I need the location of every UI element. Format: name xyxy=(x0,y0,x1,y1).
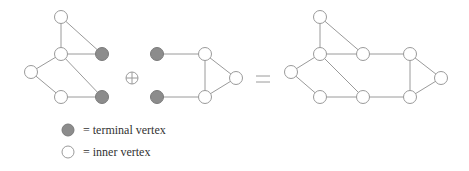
diagram-svg xyxy=(0,0,469,171)
inner-vertex xyxy=(25,66,38,79)
left-graph-edge xyxy=(61,17,102,54)
oplus-icon xyxy=(126,72,138,84)
inner-vertex xyxy=(314,11,327,24)
inner-vertex xyxy=(404,91,417,104)
inner-vertex xyxy=(404,48,417,61)
legend-terminal-vertex-icon xyxy=(62,124,74,136)
terminal-vertex xyxy=(96,48,109,61)
legend xyxy=(62,124,74,158)
inner-vertex xyxy=(230,72,243,85)
inner-vertex xyxy=(199,48,212,61)
inner-vertex xyxy=(314,48,327,61)
inner-vertex xyxy=(55,48,68,61)
result-graph-edge xyxy=(320,17,363,54)
legend-terminal-label: = terminal vertex xyxy=(83,123,166,138)
inner-vertex xyxy=(55,11,68,24)
left-graph-edge xyxy=(61,54,102,97)
inner-vertex xyxy=(285,66,298,79)
graph-composition-diagram: = terminal vertex = inner vertex xyxy=(0,0,469,171)
vertices xyxy=(25,11,448,104)
legend-inner-label: = inner vertex xyxy=(83,145,150,160)
inner-vertex xyxy=(435,72,448,85)
terminal-vertex xyxy=(151,91,164,104)
result-graph-edge xyxy=(320,54,363,97)
legend-inner-vertex-icon xyxy=(62,146,74,158)
inner-vertex xyxy=(357,91,370,104)
equals-icon xyxy=(256,76,270,82)
inner-vertex xyxy=(55,91,68,104)
inner-vertex xyxy=(199,91,212,104)
inner-vertex xyxy=(357,48,370,61)
terminal-vertex xyxy=(96,91,109,104)
terminal-vertex xyxy=(151,48,164,61)
inner-vertex xyxy=(314,91,327,104)
